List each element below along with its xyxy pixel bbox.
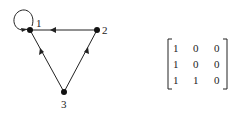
matrix-cell: 0: [193, 42, 199, 54]
node-1-label: 1: [36, 17, 42, 29]
edge-3-1: [30, 30, 64, 92]
matrix-cell: 1: [173, 42, 179, 54]
left-bracket: [168, 39, 172, 89]
graph-edges: [14, 10, 97, 92]
matrix-cell: 0: [214, 74, 220, 86]
matrix-cell: 1: [193, 74, 199, 86]
node-1: [27, 27, 33, 33]
matrix-cell: 0: [214, 42, 220, 54]
arrowhead-icon: [50, 27, 56, 33]
node-2: [94, 27, 100, 33]
adjacency-matrix: 1 0 0 1 0 0 1 1 0: [168, 39, 227, 89]
node-3-label: 3: [61, 98, 67, 110]
graph-nodes: 1 2 3: [27, 17, 108, 110]
matrix-cell: 1: [173, 58, 179, 70]
edge-3-2: [64, 30, 97, 92]
node-2-label: 2: [102, 24, 108, 36]
right-bracket: [223, 39, 227, 89]
matrix-cell: 0: [193, 58, 199, 70]
graph-and-matrix-figure: 1 2 3 1 0 0 1 0 0 1 1 0: [0, 0, 234, 113]
edge-1-1-self-loop: [14, 10, 33, 30]
matrix-cell: 0: [214, 58, 220, 70]
node-3: [61, 89, 67, 95]
matrix-cell: 1: [173, 74, 179, 86]
